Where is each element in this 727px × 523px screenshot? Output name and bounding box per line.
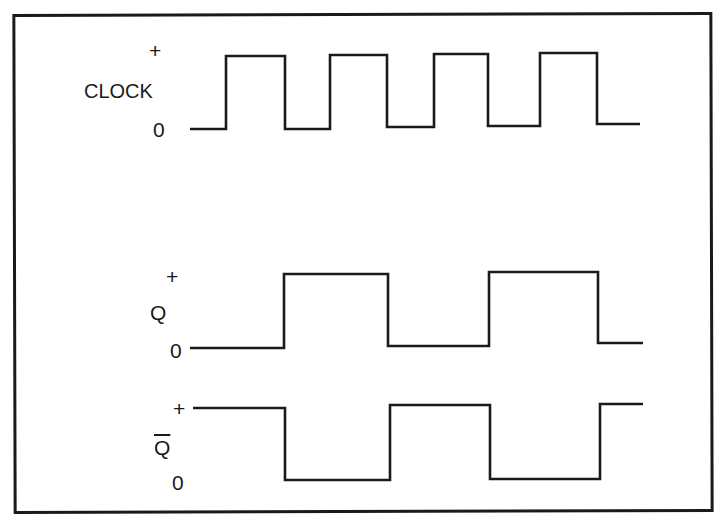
q-bar-low-label: 0: [172, 472, 184, 493]
timing-waveforms: [0, 0, 727, 523]
clock-waveform: [190, 53, 640, 129]
q-bar-high-label: +: [173, 398, 185, 419]
q-low-label: 0: [170, 340, 182, 361]
q-bar-waveform: [193, 404, 643, 480]
clock-low-label: 0: [153, 119, 165, 140]
q-waveform: [190, 272, 643, 348]
q-high-label: +: [166, 266, 178, 287]
q-bar-signal-label: Q: [154, 437, 170, 458]
clock-signal-label: CLOCK: [84, 81, 153, 101]
clock-high-label: +: [149, 40, 161, 61]
q-signal-label: Q: [150, 302, 166, 323]
